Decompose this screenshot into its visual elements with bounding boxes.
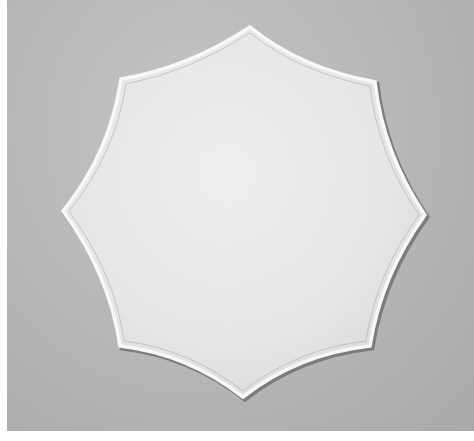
photograph [7, 0, 474, 431]
star-shape [7, 0, 474, 431]
photo-frame: Eight-pointed concave star shape with a … [0, 0, 474, 441]
